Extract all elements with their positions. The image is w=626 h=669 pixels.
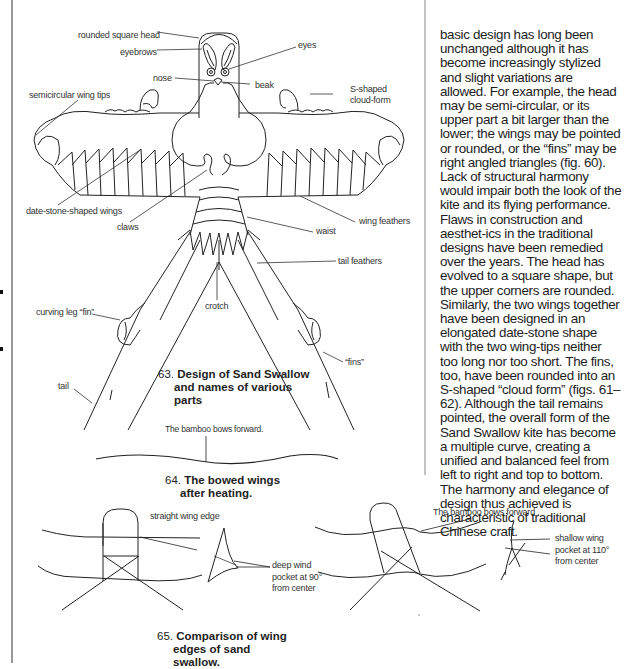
label-cloud-form: cloud-form xyxy=(350,95,391,106)
label-wing-feathers: wing feathers xyxy=(359,216,410,227)
straight-edge-frame xyxy=(38,509,270,610)
label-nose: nose xyxy=(153,73,172,84)
label-crotch: crotch xyxy=(205,301,228,312)
label-bamboo-bows-forward: The bamboo bows forward. xyxy=(165,424,263,435)
label-straight-wing-edge: straight wing edge xyxy=(150,511,219,522)
body-text-column: basic design has long been unchanged alt… xyxy=(440,28,622,539)
label-tail: tail xyxy=(58,381,69,392)
label-curving-leg-fin: curving leg “fin” xyxy=(36,307,94,318)
label-deep-wind-pocket: deep wind pocket at 90° from center xyxy=(272,560,322,595)
figure-63-number: 63. xyxy=(158,368,174,380)
figure-64-caption: 64. The bowed wings after heating. xyxy=(165,474,280,500)
label-fins: “fins” xyxy=(345,357,364,368)
label-s-shaped: S-shaped xyxy=(350,84,387,95)
label-eyes: eyes xyxy=(298,40,316,51)
label-claws: claws xyxy=(117,222,139,233)
label-tail-feathers: tail feathers xyxy=(338,256,382,267)
figure-63-caption: 63. Design of Sand Swallow and names of … xyxy=(158,368,309,407)
label-semicircular-wing-tips: semicircular wing tips xyxy=(29,90,110,101)
label-eyebrows: eyebrows xyxy=(120,47,157,58)
figure-65-caption: 65. Comparison of wing edges of sand swa… xyxy=(157,630,287,669)
label-rounded-square-head: rounded square head xyxy=(78,30,160,41)
label-date-stone-wings: date-stone-shaped wings xyxy=(26,206,122,217)
label-waist: waist xyxy=(316,226,336,237)
body-paragraph: basic design has long been unchanged alt… xyxy=(440,28,622,539)
bowed-wings-diagram xyxy=(96,436,338,464)
label-beak: beak xyxy=(255,80,274,91)
